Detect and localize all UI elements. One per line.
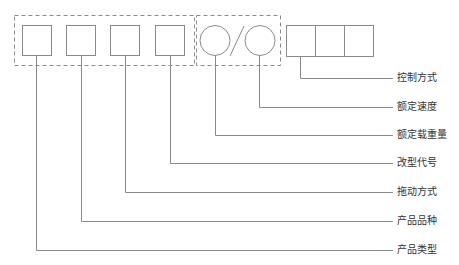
rated-load-circle	[200, 26, 230, 56]
leader-product-variety	[82, 56, 394, 222]
label-product-type: 产品类型	[397, 244, 437, 256]
product-variety-box	[67, 26, 96, 56]
product-type-box	[23, 26, 52, 56]
label-modification-code: 改型代号	[397, 157, 437, 169]
leader-modification	[171, 56, 394, 164]
leader-control	[301, 57, 394, 79]
leader-rated-speed	[260, 56, 394, 108]
label-control-mode: 控制方式	[397, 72, 437, 84]
drive-mode-box	[111, 26, 140, 56]
slash-separator	[230, 26, 244, 56]
label-product-variety: 产品品种	[397, 215, 437, 227]
label-rated-speed: 额定速度	[397, 101, 437, 113]
label-rated-load: 额定载重量	[397, 129, 447, 141]
leader-rated-load	[216, 56, 394, 136]
basic-code-group	[15, 16, 195, 66]
rated-params-group	[197, 16, 281, 66]
label-drive-mode: 拖动方式	[397, 186, 437, 198]
rated-speed-circle	[245, 26, 275, 56]
elevator-model-code-diagram	[0, 0, 459, 265]
control-mode-boxes	[287, 26, 374, 57]
modification-code-box	[156, 26, 185, 56]
